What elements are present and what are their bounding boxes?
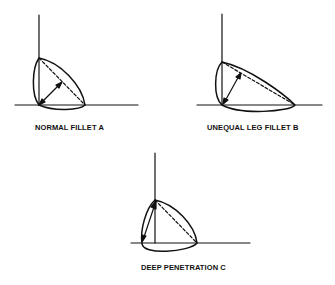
weld-bead-outline bbox=[142, 200, 197, 251]
weld-bead-outline bbox=[216, 62, 295, 111]
figure-label-c: DEEP PENETRATION C bbox=[141, 263, 226, 272]
arrowhead-icon bbox=[236, 73, 241, 79]
weld-face-dashed bbox=[155, 200, 197, 243]
arrowhead-icon bbox=[223, 98, 228, 104]
arrowhead-icon bbox=[142, 235, 146, 242]
figure-label-a: NORMAL FILLET A bbox=[35, 123, 104, 132]
figure-unequal-leg-fillet-b bbox=[197, 14, 322, 111]
figure-deep-penetration-c bbox=[131, 153, 250, 251]
weld-face-dashed bbox=[222, 62, 295, 105]
figure-normal-fillet-a bbox=[15, 15, 138, 110]
weld-diagram bbox=[0, 0, 335, 285]
figure-label-b: UNEQUAL LEG FILLET B bbox=[207, 123, 298, 132]
